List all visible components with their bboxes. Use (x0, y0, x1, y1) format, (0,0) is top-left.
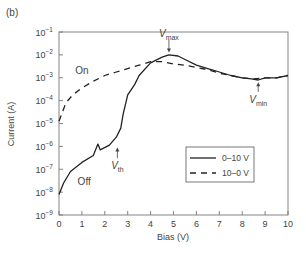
annotation-on: On (75, 65, 88, 76)
annotation-v-min: Vmin (249, 94, 267, 107)
y-tick-label: 10−7 (36, 163, 54, 175)
plot-axes (59, 32, 288, 215)
plot-frame (59, 32, 288, 215)
y-tick-label: 10−2 (36, 48, 54, 60)
x-tick-label: 2 (102, 219, 107, 229)
y-tick-label: 10−3 (36, 71, 54, 83)
x-tick-label: 1 (79, 219, 84, 229)
y-tick-label: 10−5 (36, 117, 54, 129)
legend-label-reverse: 10–0 V (222, 168, 249, 178)
x-tick-label: 9 (263, 219, 268, 229)
annotation-v-max: Vmax (159, 28, 179, 41)
x-tick-label: 10 (283, 219, 293, 229)
y-tick-label: 10−1 (36, 26, 54, 38)
legend-label-forward: 0–10 V (222, 153, 249, 163)
series-reverse-sweep (59, 62, 288, 121)
y-axis-label: Current (A) (6, 102, 16, 147)
x-tick-label: 8 (240, 219, 245, 229)
arrowhead-icon (167, 49, 171, 53)
legend: 0–10 V 10–0 V (186, 147, 254, 182)
annotation-v-th: Vth (111, 160, 124, 173)
x-tick-label: 0 (56, 219, 61, 229)
x-axis-label: Bias (V) (157, 232, 189, 242)
y-tick-label: 10−6 (36, 140, 54, 152)
x-tick-label: 5 (171, 219, 176, 229)
iv-curve-chart: (b) 10−110−210−310−410−510−610−710−810−9… (0, 0, 306, 258)
x-tick-label: 4 (148, 219, 153, 229)
x-axis-ticks: 012345678910 (56, 211, 293, 229)
arrowhead-icon (115, 148, 119, 152)
panel-label: (b) (6, 7, 18, 18)
x-tick-label: 7 (217, 219, 222, 229)
y-tick-label: 10−4 (36, 94, 54, 106)
annotation-off: Off (78, 176, 91, 187)
y-tick-label: 10−9 (36, 209, 54, 221)
x-tick-label: 3 (125, 219, 130, 229)
arrowhead-icon (256, 82, 260, 86)
x-tick-label: 6 (194, 219, 199, 229)
y-tick-label: 10−8 (36, 186, 54, 198)
